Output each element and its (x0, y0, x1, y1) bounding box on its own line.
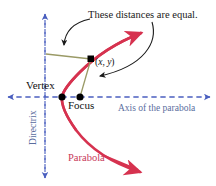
parabola-diagram: These distances are equal. Vertex Focus … (0, 0, 216, 186)
axis-of-parabola-label: Axis of the parabola (118, 104, 195, 114)
vertex-label: Vertex (26, 80, 55, 91)
parabola-label: Parabola (68, 153, 105, 164)
focus-label: Focus (68, 100, 94, 111)
directrix-label: Directrix (29, 93, 39, 163)
distances-equal-label: These distances are equal. (88, 10, 198, 21)
point-xy-label: (x, y) (95, 58, 115, 68)
point-xy-marker (88, 56, 95, 63)
annotation-arrow-left (64, 19, 90, 45)
vertex-marker (58, 93, 65, 100)
distance-segment-directrix (46, 54, 91, 59)
distance-segment-focus (80, 59, 91, 97)
parabola-label-leader (102, 155, 138, 170)
point-paren-close: ) (111, 57, 114, 67)
